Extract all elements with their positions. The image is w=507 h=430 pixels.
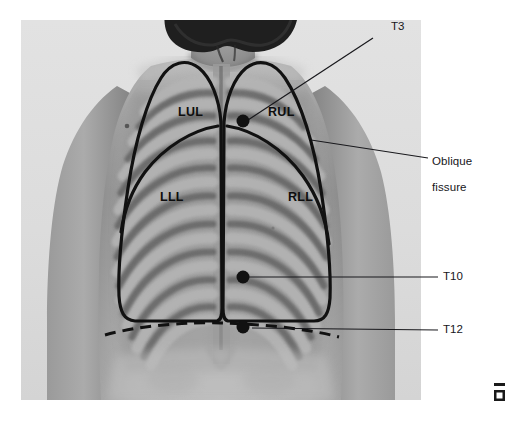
label-rul: RUL (268, 105, 295, 119)
anatomy-figure: T3 Oblique fissure T10 T12 LUL RUL LLL R… (0, 0, 507, 430)
chest-photograph (21, 20, 421, 400)
corner-print-mark (494, 383, 505, 401)
t12-dashed-border (105, 323, 339, 337)
label-rll: RLL (288, 190, 313, 204)
label-lul: LUL (178, 105, 203, 119)
label-oblique-fissure-line1: Oblique (432, 155, 472, 168)
label-t12: T12 (443, 323, 463, 336)
right-oblique-fissure (227, 126, 329, 244)
label-t10: T10 (443, 270, 463, 283)
label-t3: T3 (391, 20, 405, 33)
label-lll: LLL (160, 190, 184, 204)
label-oblique-fissure: Oblique fissure (432, 142, 472, 207)
label-oblique-fissure-line2: fissure (432, 181, 472, 194)
lung-outline-overlay (21, 20, 421, 400)
